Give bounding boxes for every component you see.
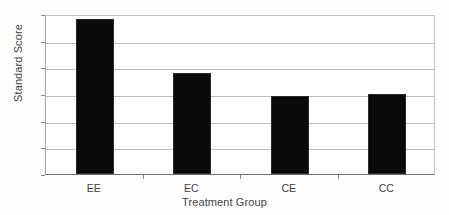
- x-tick-label: EE: [59, 182, 129, 194]
- bar: [76, 19, 114, 174]
- y-tick-mark: [41, 175, 45, 176]
- y-tick-mark: [41, 95, 45, 96]
- plot-area: [45, 15, 435, 175]
- y-tick-mark: [41, 68, 45, 69]
- y-tick-mark: [41, 148, 45, 149]
- bar: [271, 96, 309, 174]
- bar-chart: Standard Score 86889092949698 EEECCECC T…: [0, 0, 449, 215]
- y-axis-title: Standard Score: [12, 0, 24, 128]
- x-tick-label: EC: [156, 182, 226, 194]
- x-tick-label: CE: [254, 182, 324, 194]
- x-axis-title: Treatment Group: [0, 196, 449, 208]
- bars-layer: [46, 16, 434, 174]
- x-tick-mark: [143, 175, 144, 179]
- y-tick-mark: [41, 42, 45, 43]
- x-tick-mark: [240, 175, 241, 179]
- bar: [173, 73, 211, 174]
- bar: [368, 94, 406, 174]
- y-tick-mark: [41, 15, 45, 16]
- y-tick-mark: [41, 122, 45, 123]
- x-tick-mark: [338, 175, 339, 179]
- x-tick-label: CC: [351, 182, 421, 194]
